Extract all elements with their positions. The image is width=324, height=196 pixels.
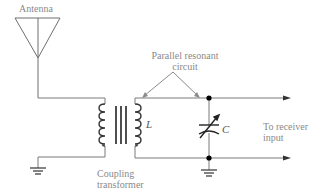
antenna-symbol <box>15 18 60 98</box>
inductor-label: L <box>146 119 152 130</box>
parallel-resonant-label-line2: circuit <box>140 61 230 72</box>
primary-wires <box>38 98 105 168</box>
pointer-arrowheads-icon <box>142 92 200 98</box>
primary-coil-icon <box>99 104 105 146</box>
receiver-label-line2: input <box>263 132 284 143</box>
antenna-label: Antenna <box>19 3 53 14</box>
ground-icon <box>201 170 217 176</box>
label-pointer-arrows <box>144 72 198 96</box>
ground-icon <box>30 168 46 174</box>
circuit-diagram <box>0 0 324 196</box>
receiver-label: To receiver <box>263 121 308 132</box>
capacitor-label: C <box>222 124 229 135</box>
secondary-coil-icon <box>135 104 141 146</box>
coupling-transformer-label: Coupling <box>97 168 134 179</box>
transformer-core-icon <box>116 106 126 144</box>
coupling-transformer-label-line2: transformer <box>97 179 144 190</box>
parallel-resonant-label: Parallel resonant <box>140 50 230 61</box>
